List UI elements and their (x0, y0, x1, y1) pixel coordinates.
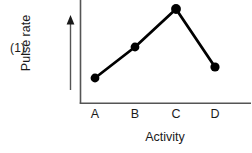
x-tick-label-a: A (82, 107, 108, 121)
figure-container: (1) Pulse rate A B C D Activity (0, 0, 252, 153)
data-point-marker (131, 43, 140, 52)
x-tick-label-d: D (202, 107, 228, 121)
data-point-marker (171, 4, 181, 14)
data-series-line (95, 9, 215, 78)
x-tick-label-b: B (122, 107, 148, 121)
x-tick-label-c: C (163, 107, 189, 121)
x-axis-label: Activity (105, 130, 225, 144)
data-point-marker (91, 74, 100, 83)
data-point-marker (210, 62, 219, 71)
